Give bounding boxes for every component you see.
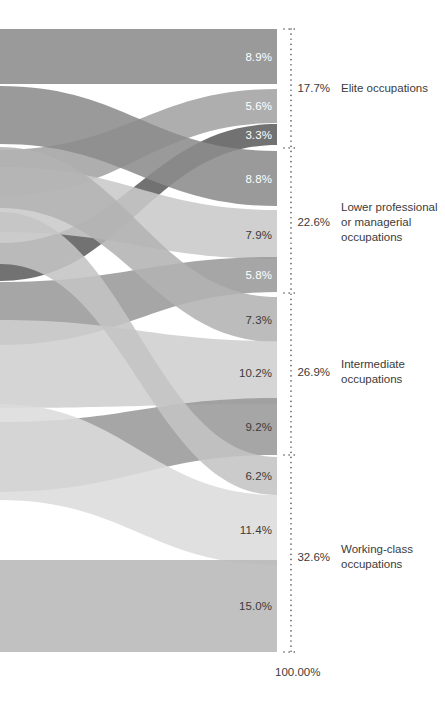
group-total-intermediate: 26.9% [297,366,330,378]
sankey-flows-svg [0,0,445,709]
axis-total-label: 100.00% [275,666,320,678]
group-name-elite: Elite occupations [341,81,428,96]
sankey-chart: 8.9%5.6%3.3%8.8%7.9%5.8%7.3%10.2%9.2%6.2… [0,0,445,709]
flow-band[interactable] [0,29,277,84]
group-name-intermediate: Intermediate occupations [341,357,405,387]
group-total-working-class: 32.6% [297,551,330,563]
flow-band[interactable] [0,560,277,652]
group-name-lower-professional: Lower professional or managerial occupat… [341,200,438,245]
dotted-axis [284,29,298,652]
group-total-elite: 17.7% [297,82,330,94]
flow-band-group [0,29,277,652]
group-name-working-class: Working-class occupations [341,542,413,572]
group-total-lower-professional: 22.6% [297,216,330,228]
